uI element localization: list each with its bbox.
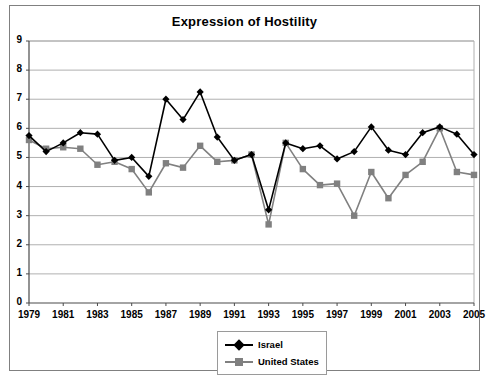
data-point-marker — [77, 129, 84, 136]
data-point-marker — [197, 88, 204, 95]
chart-legend: Israel United States — [217, 331, 327, 375]
y-tick-label: 4 — [10, 180, 22, 191]
chart-frame: Expression of Hostility 0123456789197919… — [9, 5, 480, 371]
data-point-marker — [180, 164, 186, 170]
plot-area: 0123456789197919811983198519871989199119… — [10, 6, 481, 372]
data-point-marker — [385, 195, 391, 201]
y-tick-label: 3 — [10, 209, 22, 220]
data-point-marker — [265, 221, 271, 227]
data-point-marker — [351, 212, 357, 218]
x-tick-label: 2005 — [454, 309, 492, 320]
data-point-marker — [471, 172, 477, 178]
data-point-marker — [146, 189, 152, 195]
data-point-marker — [77, 146, 83, 152]
series-line-israel — [29, 92, 474, 210]
data-point-marker — [128, 166, 134, 172]
legend-marker-united-states — [225, 356, 253, 368]
data-point-marker — [163, 160, 169, 166]
data-point-marker — [94, 162, 100, 168]
y-tick-label: 2 — [10, 238, 22, 249]
y-tick-label: 0 — [10, 296, 22, 307]
data-point-marker — [454, 169, 460, 175]
legend-label-united-states: United States — [258, 356, 319, 367]
y-tick-label: 1 — [10, 267, 22, 278]
data-point-marker — [197, 143, 203, 149]
data-point-marker — [300, 166, 306, 172]
y-tick-label: 8 — [10, 63, 22, 74]
data-point-marker — [334, 180, 340, 186]
y-tick-label: 6 — [10, 121, 22, 132]
legend-item-israel: Israel — [218, 336, 326, 353]
y-tick-label: 5 — [10, 150, 22, 161]
data-point-marker — [214, 159, 220, 165]
data-point-marker — [419, 159, 425, 165]
y-tick-label: 7 — [10, 92, 22, 103]
data-point-marker — [299, 145, 306, 152]
legend-item-united-states: United States — [218, 353, 326, 370]
data-point-marker — [317, 182, 323, 188]
legend-marker-israel — [225, 339, 253, 351]
data-point-marker — [368, 169, 374, 175]
data-point-marker — [402, 172, 408, 178]
y-tick-label: 9 — [10, 34, 22, 45]
legend-label-israel: Israel — [258, 339, 283, 350]
